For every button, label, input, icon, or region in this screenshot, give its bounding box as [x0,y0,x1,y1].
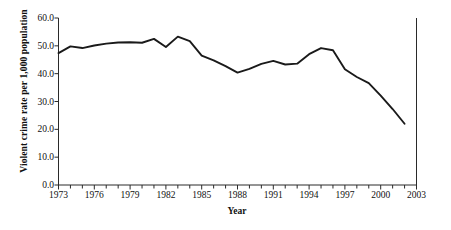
page-edge-artifact-bottom [443,196,445,205]
page-edge-artifact-top [443,175,445,184]
plot-area [0,0,451,230]
y-axis-ticks [55,18,59,185]
violent-crime-rate-line [59,37,405,124]
x-axis-ticks [59,185,417,190]
violent-crime-rate-line-chart: Violent crime rate per 1,000 population … [0,0,451,230]
